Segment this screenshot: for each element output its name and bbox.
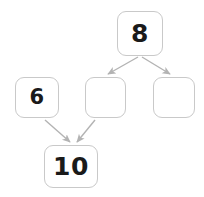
node-bottom-10-label: 10 (53, 154, 89, 179)
number-bond-diagram: 8 6 10 (0, 0, 204, 197)
arrow-mid-left-to-bottom (45, 120, 70, 142)
node-mid-center-empty[interactable] (85, 77, 126, 118)
node-bottom-10[interactable]: 10 (44, 145, 98, 188)
node-top-8[interactable]: 8 (117, 11, 163, 56)
arrow-top-to-mid-right (142, 57, 170, 74)
node-mid-right-empty[interactable] (153, 77, 195, 118)
node-mid-left-6-label: 6 (29, 87, 44, 108)
arrow-top-to-mid-center (108, 57, 138, 74)
node-mid-left-6[interactable]: 6 (15, 77, 59, 118)
arrow-mid-center-to-bottom (77, 120, 95, 142)
node-top-8-label: 8 (131, 21, 149, 46)
